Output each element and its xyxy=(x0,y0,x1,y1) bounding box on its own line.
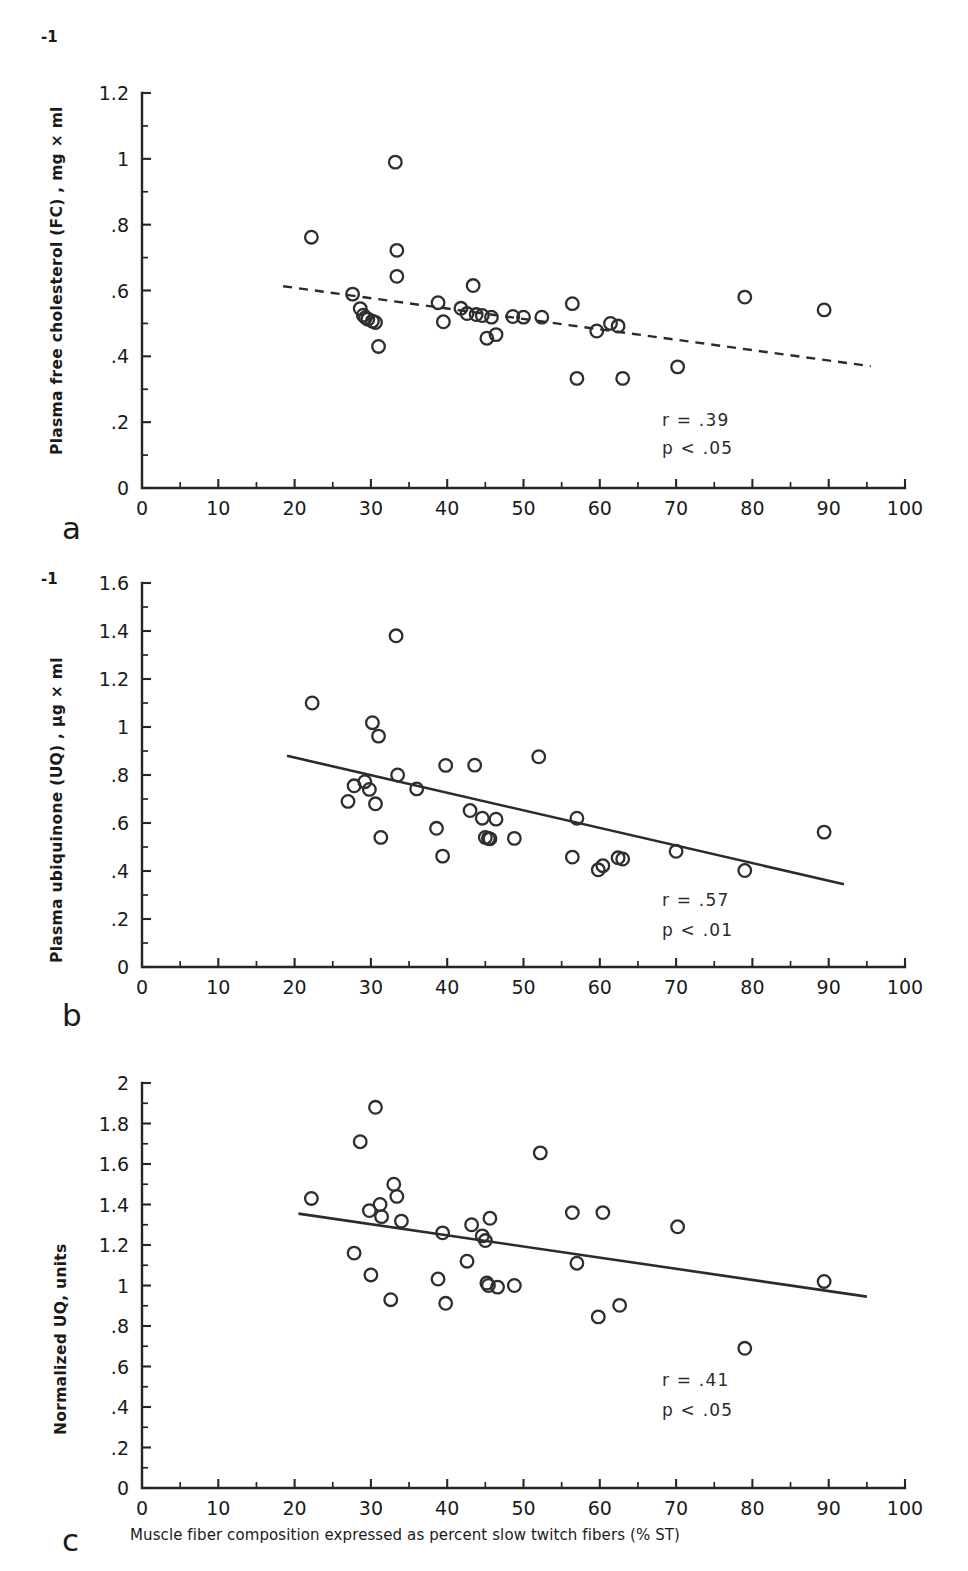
panel-a-p-value: p < .05 xyxy=(662,438,733,458)
svg-text:.8: .8 xyxy=(111,764,129,786)
svg-text:1.2: 1.2 xyxy=(99,1234,129,1256)
data-point xyxy=(467,279,480,292)
svg-text:50: 50 xyxy=(511,1497,535,1519)
svg-text:90: 90 xyxy=(817,1497,841,1519)
data-point xyxy=(354,1135,367,1148)
data-point xyxy=(395,1215,408,1228)
svg-text:70: 70 xyxy=(664,497,688,519)
data-point xyxy=(342,795,355,808)
svg-text:10: 10 xyxy=(206,1497,230,1519)
svg-text:.4: .4 xyxy=(111,1396,129,1418)
data-point xyxy=(348,1247,361,1260)
svg-text:30: 30 xyxy=(359,976,383,998)
data-point xyxy=(432,296,445,309)
svg-text:50: 50 xyxy=(511,976,535,998)
data-point xyxy=(532,750,545,763)
data-point xyxy=(389,156,402,169)
svg-text:20: 20 xyxy=(283,497,307,519)
svg-text:.6: .6 xyxy=(111,812,129,834)
data-point xyxy=(738,291,751,304)
panel-c: Normalized UQ, units 0102030405060708090… xyxy=(0,1045,968,1571)
data-point xyxy=(391,270,404,283)
data-point xyxy=(566,1206,579,1219)
svg-text:40: 40 xyxy=(435,1497,459,1519)
data-point xyxy=(671,361,684,374)
svg-text:100: 100 xyxy=(887,1497,923,1519)
data-point xyxy=(375,1210,388,1223)
svg-text:90: 90 xyxy=(817,497,841,519)
data-point xyxy=(369,1101,382,1114)
data-point xyxy=(612,320,625,333)
svg-text:1.4: 1.4 xyxy=(99,620,129,642)
svg-text:70: 70 xyxy=(664,1497,688,1519)
panel-a-letter: a xyxy=(62,513,81,544)
svg-text:.2: .2 xyxy=(111,1437,129,1459)
data-point xyxy=(534,1147,547,1160)
svg-text:1: 1 xyxy=(117,1275,129,1297)
data-point xyxy=(566,851,579,864)
data-point xyxy=(468,759,481,772)
data-point xyxy=(439,1297,452,1310)
data-point xyxy=(818,304,831,317)
svg-text:1.8: 1.8 xyxy=(99,1113,129,1135)
data-point xyxy=(484,1212,497,1225)
svg-text:1: 1 xyxy=(117,716,129,738)
data-point xyxy=(738,1342,751,1355)
panel-a-r-value: r = .39 xyxy=(662,410,729,430)
svg-text:20: 20 xyxy=(283,1497,307,1519)
data-point xyxy=(384,1293,397,1306)
data-point xyxy=(616,372,629,385)
svg-text:80: 80 xyxy=(740,497,764,519)
svg-text:1.2: 1.2 xyxy=(99,82,129,104)
svg-text:.4: .4 xyxy=(111,860,129,882)
svg-text:0: 0 xyxy=(136,1497,148,1519)
svg-text:100: 100 xyxy=(887,976,923,998)
data-point xyxy=(436,850,449,863)
data-point xyxy=(372,730,385,743)
data-point xyxy=(738,864,751,877)
data-point xyxy=(374,1198,387,1211)
multi-panel-scatter-figure: Plasma free cholesterol (FC) , mg × ml -… xyxy=(0,0,968,1571)
data-point xyxy=(670,845,683,858)
svg-text:100: 100 xyxy=(887,497,923,519)
svg-text:2: 2 xyxy=(117,1072,129,1094)
svg-text:20: 20 xyxy=(283,976,307,998)
data-point xyxy=(432,1273,445,1286)
data-point xyxy=(604,317,617,330)
svg-text:1.6: 1.6 xyxy=(99,1153,129,1175)
svg-text:.8: .8 xyxy=(111,214,129,236)
panel-b-r-value: r = .57 xyxy=(662,890,729,910)
svg-text:.2: .2 xyxy=(111,908,129,930)
data-point xyxy=(671,1220,684,1233)
data-point xyxy=(571,1257,584,1270)
data-point xyxy=(464,804,477,817)
data-point xyxy=(387,1178,400,1191)
data-point xyxy=(391,769,404,782)
panel-c-p-value: p < .05 xyxy=(662,1400,733,1420)
data-point xyxy=(365,1269,378,1282)
svg-text:70: 70 xyxy=(664,976,688,998)
svg-text:1.2: 1.2 xyxy=(99,668,129,690)
panel-b-letter: b xyxy=(62,1000,82,1031)
svg-text:80: 80 xyxy=(740,1497,764,1519)
data-point xyxy=(390,630,403,643)
svg-text:1.6: 1.6 xyxy=(99,572,129,594)
data-point xyxy=(490,813,503,826)
svg-text:60: 60 xyxy=(588,497,612,519)
panel-b-plot: 01020304050607080901000.2.4.6.811.21.41.… xyxy=(0,545,968,1045)
data-point xyxy=(391,1190,404,1203)
data-point xyxy=(306,697,319,710)
panel-c-r-value: r = .41 xyxy=(662,1370,729,1390)
data-point xyxy=(437,315,450,328)
svg-text:0: 0 xyxy=(117,477,129,499)
svg-text:.2: .2 xyxy=(111,411,129,433)
data-point xyxy=(571,372,584,385)
data-point xyxy=(485,311,498,324)
data-point xyxy=(430,822,443,835)
svg-text:0: 0 xyxy=(136,976,148,998)
panel-b: Plasma ubiquinone (UQ) , µg × ml -1 0102… xyxy=(0,545,968,1045)
svg-text:80: 80 xyxy=(740,976,764,998)
svg-text:10: 10 xyxy=(206,976,230,998)
svg-text:40: 40 xyxy=(435,497,459,519)
svg-text:.4: .4 xyxy=(111,345,129,367)
